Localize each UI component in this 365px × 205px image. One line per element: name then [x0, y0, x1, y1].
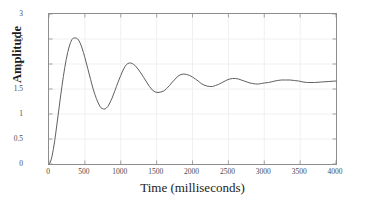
y-tick-label: 0.5: [0, 134, 23, 143]
y-tick-label: 2.5: [0, 34, 23, 43]
y-tick-label: 2: [0, 59, 23, 68]
chart-screenshot: Amplitude 00.511.522.53 0500100015002000…: [0, 0, 365, 205]
x-tick-label: 3500: [292, 167, 307, 176]
y-tick-label: 1: [0, 109, 23, 118]
x-axis-title: Time (milliseconds): [48, 180, 337, 196]
y-tick-label: 0: [0, 159, 23, 168]
x-tick-label: 0: [46, 167, 50, 176]
y-tick-label: 3: [0, 9, 23, 18]
x-tick-label: 1000: [112, 167, 127, 176]
axis-ticks: [49, 14, 336, 164]
y-tick-label: 1.5: [0, 84, 23, 93]
plot-area: [48, 13, 337, 165]
x-tick-label: 1500: [148, 167, 163, 176]
x-tick-label: 500: [78, 167, 89, 176]
x-tick-label: 2500: [220, 167, 235, 176]
x-tick-label: 2000: [184, 167, 199, 176]
x-tick-label: 4000: [328, 167, 343, 176]
x-tick-label: 3000: [256, 167, 271, 176]
